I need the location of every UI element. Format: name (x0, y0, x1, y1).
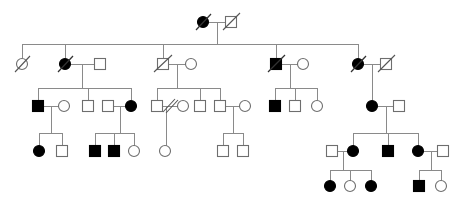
symbol-female-unaffected[interactable] (298, 59, 309, 70)
individual-V-5[interactable] (436, 181, 447, 192)
individual-II-9[interactable] (378, 55, 395, 72)
symbol-male-affected[interactable] (90, 146, 101, 157)
individual-I-1[interactable] (196, 14, 211, 30)
individual-III-11[interactable] (270, 101, 281, 112)
individual-II-3[interactable] (95, 59, 106, 70)
individual-II-8[interactable] (351, 56, 366, 72)
individual-II-7[interactable] (298, 59, 309, 70)
symbol-female-unaffected[interactable] (178, 101, 189, 112)
individual-IV-1[interactable] (34, 146, 45, 157)
individual-II-5[interactable] (186, 59, 197, 70)
individual-III-1[interactable] (33, 101, 44, 112)
symbol-male-unaffected[interactable] (195, 101, 206, 112)
individual-III-9[interactable] (215, 101, 226, 112)
symbol-male-unaffected[interactable] (438, 146, 449, 157)
symbol-female-affected[interactable] (348, 146, 359, 157)
individual-V-4[interactable] (414, 181, 425, 192)
symbol-male-unaffected[interactable] (290, 101, 301, 112)
symbol-male-unaffected[interactable] (238, 146, 249, 157)
individual-IV-9[interactable] (327, 146, 338, 157)
individual-III-15[interactable] (394, 101, 405, 112)
symbol-female-unaffected[interactable] (186, 59, 197, 70)
individual-III-8[interactable] (195, 101, 206, 112)
individual-IV-6[interactable] (160, 146, 171, 157)
individual-IV-13[interactable] (438, 146, 449, 157)
symbol-female-unaffected[interactable] (59, 101, 70, 112)
symbol-female-affected[interactable] (413, 146, 424, 157)
individual-V-2[interactable] (345, 181, 356, 192)
individual-III-3[interactable] (83, 101, 94, 112)
individual-IV-8[interactable] (238, 146, 249, 157)
symbol-female-affected[interactable] (325, 181, 336, 192)
individual-III-10[interactable] (240, 101, 251, 112)
individual-III-13[interactable] (312, 101, 323, 112)
individual-IV-2[interactable] (57, 146, 68, 157)
individual-III-6[interactable] (152, 101, 163, 112)
symbol-female-affected[interactable] (367, 101, 378, 112)
individual-IV-11[interactable] (383, 146, 394, 157)
individual-IV-10[interactable] (348, 146, 359, 157)
individual-II-2[interactable] (58, 56, 73, 72)
individual-V-1[interactable] (325, 181, 336, 192)
symbol-female-unaffected[interactable] (312, 101, 323, 112)
individual-III-4[interactable] (103, 101, 114, 112)
individual-IV-4[interactable] (109, 146, 120, 157)
generation-III (33, 99, 405, 113)
symbol-male-affected[interactable] (270, 101, 281, 112)
symbol-male-affected[interactable] (109, 146, 120, 157)
individual-III-14[interactable] (367, 101, 378, 112)
individual-III-12[interactable] (290, 101, 301, 112)
generation-IV (34, 146, 449, 157)
symbol-male-affected[interactable] (414, 181, 425, 192)
symbol-female-unaffected[interactable] (436, 181, 447, 192)
pedigree-svg (0, 0, 465, 202)
symbol-male-unaffected[interactable] (83, 101, 94, 112)
symbol-male-affected[interactable] (383, 146, 394, 157)
symbol-male-unaffected[interactable] (95, 59, 106, 70)
symbol-male-unaffected[interactable] (394, 101, 405, 112)
symbol-male-unaffected[interactable] (218, 146, 229, 157)
symbol-male-unaffected[interactable] (327, 146, 338, 157)
symbol-male-unaffected[interactable] (103, 101, 114, 112)
individual-V-3[interactable] (366, 181, 377, 192)
individual-I-2[interactable] (223, 13, 240, 30)
generation-V (325, 181, 447, 192)
symbol-male-unaffected[interactable] (152, 101, 163, 112)
individual-IV-5[interactable] (129, 146, 140, 157)
individual-III-7[interactable] (178, 101, 189, 112)
individual-IV-3[interactable] (90, 146, 101, 157)
individual-III-2[interactable] (59, 101, 70, 112)
symbol-female-affected[interactable] (34, 146, 45, 157)
symbol-male-unaffected[interactable] (57, 146, 68, 157)
individual-II-1[interactable] (15, 56, 30, 72)
symbol-female-affected[interactable] (126, 101, 137, 112)
symbol-female-affected[interactable] (366, 181, 377, 192)
symbol-female-unaffected[interactable] (345, 181, 356, 192)
individual-IV-7[interactable] (218, 146, 229, 157)
symbol-female-unaffected[interactable] (240, 101, 251, 112)
pedigree-chart (0, 0, 465, 202)
individual-III-5[interactable] (126, 101, 137, 112)
symbol-male-affected[interactable] (33, 101, 44, 112)
individual-IV-12[interactable] (413, 146, 424, 157)
symbol-female-unaffected[interactable] (160, 146, 171, 157)
symbol-male-unaffected[interactable] (215, 101, 226, 112)
symbol-female-unaffected[interactable] (129, 146, 140, 157)
